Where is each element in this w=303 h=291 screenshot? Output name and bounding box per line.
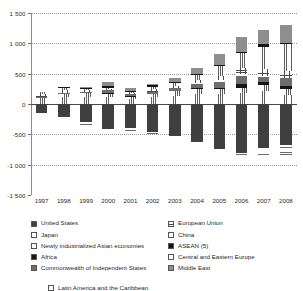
bar-segment xyxy=(125,129,137,131)
legend-swatch-icon xyxy=(48,285,54,291)
legend-item: ASEAN (5) xyxy=(168,240,255,251)
legend-item: China xyxy=(168,229,255,240)
bar-segment xyxy=(169,91,181,96)
legend-label: Newly industrialized Asian economies xyxy=(41,243,144,249)
bar-segment xyxy=(147,92,159,94)
bar-stack xyxy=(191,0,203,212)
bar-segment xyxy=(236,76,248,83)
bar-segment xyxy=(214,94,226,104)
legend-item: Africa xyxy=(31,252,146,263)
bar-segment xyxy=(58,88,70,90)
x-axis-label: 2001 xyxy=(124,197,138,204)
legend-swatch-icon xyxy=(168,221,174,227)
bar-stack xyxy=(169,0,181,212)
bar-segment xyxy=(191,80,203,84)
bar-segment xyxy=(80,104,92,122)
x-axis-label: 1998 xyxy=(57,197,71,204)
bar-segment xyxy=(147,132,159,134)
bar-segment xyxy=(80,93,92,97)
legend-item: Japan xyxy=(31,229,146,240)
bar-segment xyxy=(214,82,226,88)
x-axis-label: 2002 xyxy=(146,197,160,204)
bar-segment xyxy=(280,89,292,94)
bar-segment xyxy=(58,119,70,120)
bar-segment xyxy=(80,89,92,90)
bar-segment xyxy=(280,25,292,43)
bar-segment xyxy=(80,97,92,104)
legend-label: Commonwealth of Independent States xyxy=(41,265,146,271)
bar-segment xyxy=(80,123,92,125)
legend-label: Middle East xyxy=(178,265,210,271)
x-axis-label: 1997 xyxy=(35,197,49,204)
legend-item: Commonwealth of Independent States xyxy=(31,263,146,274)
bar-stack xyxy=(80,0,92,212)
bar-segment xyxy=(169,78,181,82)
bar-segment xyxy=(258,91,270,104)
legend-label: China xyxy=(178,232,194,238)
x-axis-label: 2005 xyxy=(212,197,226,204)
bar-segment xyxy=(102,88,114,89)
bar-segment xyxy=(191,74,203,75)
bar-segment xyxy=(169,104,181,136)
legend-item: Central and Eastern Europe xyxy=(168,252,255,263)
bar-segment xyxy=(36,98,48,99)
legend-label: Latin America and the Caribbean xyxy=(58,285,148,291)
bar-segment xyxy=(169,136,181,138)
bar-segment xyxy=(258,85,270,92)
bar-segment xyxy=(258,69,270,76)
legend-swatch-icon xyxy=(168,265,174,271)
bar-segment xyxy=(280,78,292,86)
bar-segment xyxy=(80,90,92,92)
bar-segment xyxy=(236,74,248,76)
bar-segment xyxy=(125,93,137,94)
bar-segment xyxy=(58,97,70,104)
x-axis-label: 1999 xyxy=(79,197,93,204)
bar-segment xyxy=(214,89,226,94)
bar-segment xyxy=(102,89,114,90)
bar-segment xyxy=(280,146,292,155)
bar-segment xyxy=(280,95,292,104)
bar-segment xyxy=(102,82,114,87)
bar-segment xyxy=(125,96,137,99)
bar-segment xyxy=(258,76,270,77)
bar-segment xyxy=(191,89,203,94)
bar-segment xyxy=(214,88,226,90)
bar-segment xyxy=(214,149,226,153)
bar-segment xyxy=(191,88,203,89)
bar-segment xyxy=(36,114,48,115)
bar-segment xyxy=(236,52,248,54)
x-axis-label: 2006 xyxy=(235,197,249,204)
legend-swatch-icon xyxy=(31,254,37,260)
bar-segment xyxy=(147,89,159,92)
bar-segment xyxy=(280,71,292,78)
legend-item-latin-america: Latin America and the Caribbean xyxy=(48,285,148,291)
bar-segment xyxy=(214,65,226,66)
bar-segment xyxy=(36,94,48,98)
bar-segment xyxy=(236,37,248,52)
bar-segment xyxy=(125,99,137,104)
bar-segment xyxy=(191,84,203,88)
bar-segment xyxy=(191,83,203,84)
legend-swatch-icon xyxy=(168,232,174,238)
legend-swatch-icon xyxy=(168,254,174,260)
bar-stack xyxy=(36,0,48,212)
bar-segment xyxy=(258,44,270,46)
bar-segment xyxy=(80,88,92,90)
bar-segment xyxy=(102,86,114,87)
legend-label: European Union xyxy=(178,220,223,226)
bar-segment xyxy=(236,68,248,73)
bar-segment xyxy=(214,66,226,76)
bar-segment xyxy=(258,30,270,45)
plot-area: 1 5001 0005000-500-1 000-1 500 xyxy=(0,0,303,212)
bar-stack xyxy=(102,0,114,212)
bar-segment xyxy=(147,85,159,86)
bar-segment xyxy=(236,153,248,159)
bar-segment xyxy=(169,88,181,90)
legend-label: ASEAN (5) xyxy=(178,243,208,249)
bar-segment xyxy=(258,77,270,82)
legend-swatch-icon xyxy=(31,221,37,227)
bar-segment xyxy=(80,92,92,93)
bar-segment xyxy=(125,92,137,93)
bar-segment xyxy=(36,98,48,104)
